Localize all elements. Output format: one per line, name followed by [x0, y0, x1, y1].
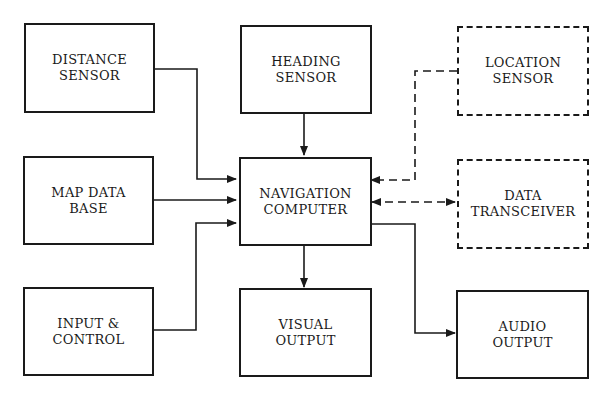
distance-sensor-label: DISTANCE SENSOR: [52, 52, 127, 84]
data-transceiver-box: DATA TRANSCEIVER: [457, 159, 589, 249]
edge-location-to-nav: [371, 71, 457, 180]
map-data-base-box: MAP DATA BASE: [23, 156, 154, 245]
input-control-box: INPUT & CONTROL: [23, 287, 154, 376]
location-sensor-box: LOCATION SENSOR: [457, 26, 589, 116]
navigation-computer-box: NAVIGATION COMPUTER: [239, 157, 372, 246]
heading-sensor-box: HEADING SENSOR: [240, 25, 372, 114]
data-transceiver-label: DATA TRANSCEIVER: [471, 188, 576, 220]
navigation-computer-label: NAVIGATION COMPUTER: [259, 186, 352, 218]
edge-distance-to-nav: [154, 69, 236, 179]
distance-sensor-box: DISTANCE SENSOR: [24, 23, 155, 113]
heading-sensor-label: HEADING SENSOR: [271, 54, 341, 86]
audio-output-label: AUDIO OUTPUT: [492, 319, 552, 351]
map-data-base-label: MAP DATA BASE: [51, 185, 125, 217]
edge-input-to-nav: [153, 223, 236, 330]
visual-output-label: VISUAL OUTPUT: [275, 317, 335, 349]
visual-output-box: VISUAL OUTPUT: [239, 288, 372, 377]
location-sensor-label: LOCATION SENSOR: [485, 55, 561, 87]
edge-nav-to-audio: [371, 224, 455, 333]
audio-output-box: AUDIO OUTPUT: [456, 290, 589, 379]
input-control-label: INPUT & CONTROL: [53, 316, 125, 348]
